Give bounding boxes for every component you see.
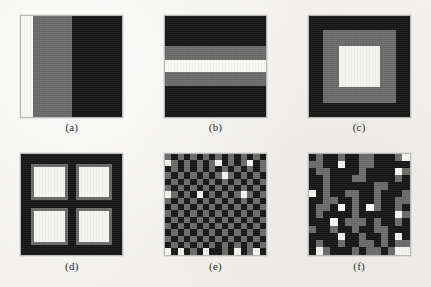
panel-f-cell	[330, 168, 337, 175]
panel-d-square-fill-0	[34, 167, 65, 198]
panel-f-cell	[374, 161, 381, 168]
panel-f-cell	[359, 226, 366, 233]
panel-f-cell	[323, 168, 330, 175]
panel-grid: (a) (b) (c) (d)	[0, 0, 431, 287]
panel-f-cell	[388, 233, 395, 240]
panel-f-cell	[359, 218, 366, 225]
panel-f-cell	[381, 204, 388, 211]
panel-f-cell	[352, 218, 359, 225]
panel-a-caption: (a)	[65, 122, 78, 133]
panel-f-cell	[330, 190, 337, 197]
panel-a-band-0	[21, 16, 33, 117]
panel-f-cell	[316, 240, 323, 247]
panel-f-cell	[338, 197, 345, 204]
figure-cell-c: (c)	[287, 0, 431, 144]
panel-f-cell	[402, 168, 409, 175]
panel-f-cell	[316, 190, 323, 197]
panel-f-cell	[338, 247, 345, 254]
panel-f-cell	[338, 161, 345, 168]
panel-f-cell	[316, 161, 323, 168]
panel-f-cell	[395, 197, 402, 204]
panel-f-cell	[381, 218, 388, 225]
panel-f-cell	[395, 218, 402, 225]
panel-f-cell	[395, 240, 402, 247]
panel-f-cell	[309, 218, 316, 225]
panel-f-cell	[309, 154, 316, 161]
panel-f-cell	[338, 240, 345, 247]
panel-b-band-4	[165, 86, 266, 117]
panel-f-cell	[345, 154, 352, 161]
panel-f-cell	[345, 161, 352, 168]
panel-f-cell	[366, 204, 373, 211]
panel-f-cell	[395, 247, 402, 254]
panel-f-cell	[381, 175, 388, 182]
panel-f-cell	[323, 233, 330, 240]
panel-f-cell	[338, 168, 345, 175]
panel-f-cell	[323, 247, 330, 254]
panel-f-cell	[352, 211, 359, 218]
panel-f-cell	[374, 233, 381, 240]
panel-f-cell	[374, 190, 381, 197]
panel-b	[164, 15, 267, 118]
panel-f-cell	[381, 190, 388, 197]
panel-b-band-2	[165, 60, 266, 71]
panel-f-cell	[402, 154, 409, 161]
panel-f-cell	[316, 233, 323, 240]
panel-f-cell	[352, 175, 359, 182]
panel-f-cell	[359, 204, 366, 211]
panel-d-square-2	[31, 208, 68, 245]
panel-f-cell	[323, 190, 330, 197]
panel-f-cell	[366, 154, 373, 161]
panel-f-cell	[366, 233, 373, 240]
panel-f-cell	[402, 247, 409, 254]
panel-f-cell	[395, 233, 402, 240]
panel-f-cell	[338, 218, 345, 225]
panel-f-cell	[323, 182, 330, 189]
panel-f-cell	[338, 190, 345, 197]
panel-f-cell	[352, 154, 359, 161]
panel-f-cell	[395, 211, 402, 218]
panel-f-cell	[338, 211, 345, 218]
panel-f-cell	[330, 197, 337, 204]
panel-f-cell	[374, 204, 381, 211]
panel-f-cell	[374, 218, 381, 225]
panel-f-cell	[352, 168, 359, 175]
panel-f-cell	[309, 233, 316, 240]
panel-f-cell	[323, 218, 330, 225]
figure-cell-f: (f)	[287, 144, 431, 287]
panel-f-cell	[323, 204, 330, 211]
panel-f-cell	[345, 197, 352, 204]
panel-f-cell	[345, 190, 352, 197]
panel-f-cell	[309, 211, 316, 218]
panel-f-cell	[316, 247, 323, 254]
panel-d-four-squares	[21, 154, 122, 255]
panel-f-cell	[338, 154, 345, 161]
panel-f-cell	[388, 197, 395, 204]
panel-f-cell	[316, 175, 323, 182]
panel-f-cell	[352, 161, 359, 168]
panel-f	[308, 153, 411, 256]
panel-f-cell	[316, 168, 323, 175]
panel-f-cell	[330, 204, 337, 211]
panel-f-cell	[374, 197, 381, 204]
panel-f-cell	[316, 211, 323, 218]
panel-f-cell	[345, 247, 352, 254]
panel-f-cell	[388, 218, 395, 225]
panel-f-cell	[359, 154, 366, 161]
panel-f-cell	[381, 168, 388, 175]
panel-f-cell	[359, 182, 366, 189]
panel-f-cell	[366, 211, 373, 218]
panel-f-cell	[359, 247, 366, 254]
panel-f-cell	[366, 247, 373, 254]
panel-f-cell	[381, 154, 388, 161]
panel-f-cell	[359, 168, 366, 175]
panel-f-cell	[352, 204, 359, 211]
panel-f-cell	[323, 240, 330, 247]
panel-f-cell	[330, 247, 337, 254]
panel-f-cell	[381, 247, 388, 254]
panel-f-cell	[359, 240, 366, 247]
panel-f-cell	[381, 240, 388, 247]
figure-cell-a: (a)	[0, 0, 144, 144]
panel-f-cell	[402, 182, 409, 189]
panel-f-cell	[381, 182, 388, 189]
